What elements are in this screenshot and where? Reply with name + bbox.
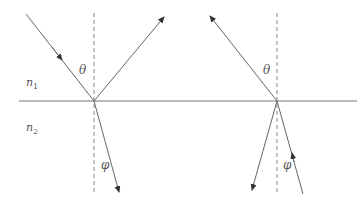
left-phi-label: φ — [101, 158, 110, 172]
left-reflected-ray — [94, 17, 164, 101]
right-theta-label: θ — [263, 63, 271, 77]
right-lower-right-ray — [277, 101, 303, 194]
left-theta-label: θ — [79, 63, 87, 77]
left-refracted-ray — [94, 101, 119, 192]
right-lower-left-ray — [252, 101, 277, 190]
reflection-refraction-diagram: θ φ n1 n2 θ φ — [0, 0, 357, 201]
right-figure: θ φ — [210, 13, 303, 194]
left-incident-arrow-icon — [52, 47, 62, 60]
right-phi-label: φ — [283, 158, 292, 172]
right-upper-ray — [210, 16, 277, 101]
n1-label: n1 — [26, 76, 38, 91]
left-figure: θ φ n1 n2 — [26, 13, 164, 193]
n2-label: n2 — [26, 121, 38, 136]
